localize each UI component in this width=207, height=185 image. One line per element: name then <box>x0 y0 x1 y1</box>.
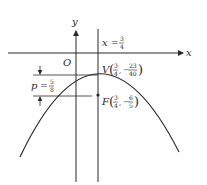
svg-text:5: 5 <box>50 78 54 85</box>
x-axis-label: x <box>186 47 192 58</box>
svg-text:=: = <box>40 81 48 91</box>
svg-text:): ) <box>138 62 143 77</box>
svg-text:6: 6 <box>129 94 133 101</box>
svg-text:40: 40 <box>129 70 137 77</box>
svg-text:5: 5 <box>129 102 133 109</box>
svg-text:4: 4 <box>120 43 124 50</box>
svg-text:23: 23 <box>129 62 137 69</box>
svg-text:4: 4 <box>114 102 118 109</box>
vertex-label: V ( 3 4 , − 23 40 ) <box>102 62 143 77</box>
svg-text:=: = <box>111 38 119 48</box>
svg-text:3: 3 <box>114 62 118 69</box>
axis-of-symmetry-label: x = 3 4 <box>102 35 124 50</box>
y-axis-label: y <box>71 16 78 27</box>
focal-distance-label: p = 5 8 <box>31 78 54 93</box>
focus-label: F ( 3 4 , − 6 5 ) <box>101 94 139 109</box>
svg-text:3: 3 <box>114 94 118 101</box>
svg-text:3: 3 <box>120 35 124 42</box>
svg-text:8: 8 <box>50 86 54 93</box>
svg-text:,: , <box>119 67 121 75</box>
parabola-diagram: x y O x = 3 4 p = 5 8 V ( 3 4 , − 23 40 <box>0 0 207 185</box>
svg-text:4: 4 <box>114 70 118 77</box>
origin-label: O <box>63 57 71 68</box>
focus-point <box>96 93 99 96</box>
svg-text:p: p <box>31 80 38 91</box>
svg-text:x: x <box>102 37 108 48</box>
svg-text:): ) <box>134 94 139 109</box>
diagram-canvas: x y O x = 3 4 p = 5 8 V ( 3 4 , − 23 40 <box>0 0 207 185</box>
svg-text:,: , <box>119 99 121 107</box>
